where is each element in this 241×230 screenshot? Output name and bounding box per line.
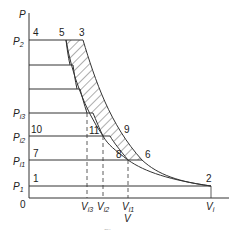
y-axis-label: P <box>19 9 26 20</box>
svg-text:Vi: Vi <box>206 201 215 213</box>
point-label-1: 1 <box>33 173 39 184</box>
volume-label-vi1: Vi1 <box>122 201 134 213</box>
point-label-3: 3 <box>79 27 85 38</box>
volume-label-vi2: Vi2 <box>97 201 109 213</box>
point-label-7: 7 <box>33 148 39 159</box>
svg-text:Pi1: Pi1 <box>13 156 25 168</box>
point-label-5: 5 <box>59 27 65 38</box>
point-label-10: 10 <box>31 124 43 135</box>
point-label-4: 4 <box>33 27 39 38</box>
volume-label-vi3: Vi3 <box>81 201 93 213</box>
pressure-label-pi1: Pi1 <box>13 156 25 168</box>
x-axis-label: V <box>124 213 132 224</box>
svg-text:P1: P1 <box>13 181 24 193</box>
svg-text:Pi2: Pi2 <box>13 132 25 144</box>
svg-text:Vi3: Vi3 <box>81 201 93 213</box>
figure-caption: Fig. <box>104 227 117 230</box>
svg-text:P2: P2 <box>13 36 24 48</box>
pressure-label-p1: P1 <box>13 181 24 193</box>
point-label-8: 8 <box>116 149 122 160</box>
volume-label-vi: Vi <box>206 201 215 213</box>
svg-text:Vi1: Vi1 <box>122 201 134 213</box>
pressure-label-p2: P2 <box>13 36 24 48</box>
point-label-2: 2 <box>206 173 212 184</box>
pressure-label-pi3: Pi3 <box>13 108 25 120</box>
pv-diagram: P V 0 P2 Pi3 Pi2 Pi1 P1 Vi3 Vi2 Vi1 Vi 1… <box>0 0 241 230</box>
point-label-11: 11 <box>89 125 100 136</box>
svg-text:Vi2: Vi2 <box>97 201 109 213</box>
point-label-6: 6 <box>145 149 151 160</box>
pressure-label-pi2: Pi2 <box>13 132 25 144</box>
svg-text:Pi3: Pi3 <box>13 108 25 120</box>
origin-label: 0 <box>20 199 26 210</box>
point-label-9: 9 <box>124 124 130 135</box>
